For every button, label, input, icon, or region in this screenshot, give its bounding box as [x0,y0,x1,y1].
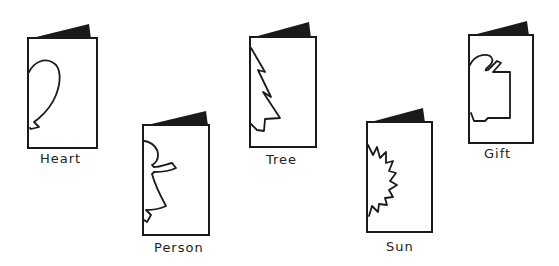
card-label: Gift [484,146,511,161]
card-label: Sun [386,239,414,254]
card-body [143,125,209,235]
card-body [28,38,97,148]
card-flap [28,24,91,39]
card-sun: Sun [367,108,432,254]
card-flap [367,108,425,123]
card-flap [143,111,208,126]
card-tree: Tree [250,22,316,167]
card-body [469,35,533,143]
card-label: Tree [265,152,297,167]
folded-cards-diagram: Heart Person Tree Sun Gift [0,0,559,266]
card-label: Person [154,240,204,255]
card-person: Person [143,111,209,255]
card-flap [250,22,311,38]
card-flap [469,21,529,36]
card-heart: Heart [28,24,97,166]
card-gift: Gift [469,21,533,161]
card-body [367,122,432,232]
card-label: Heart [40,151,81,166]
